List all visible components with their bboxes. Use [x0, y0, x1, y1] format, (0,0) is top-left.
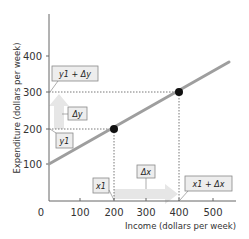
- label-dy: Δy: [62, 107, 87, 120]
- y-tick-400: 400: [23, 51, 42, 62]
- svg-text:x1: x1: [95, 182, 106, 191]
- svg-text:y1 + Δy: y1 + Δy: [58, 70, 91, 79]
- x-tick-300: 300: [136, 207, 155, 218]
- x-tick-200: 200: [104, 207, 123, 218]
- label-x1-plus-dx: x1 + Δx: [180, 176, 232, 200]
- x-tick-500: 500: [203, 207, 222, 218]
- y-tick-100: 100: [23, 159, 42, 170]
- y-axis-title: Expenditure (dollars per week): [12, 42, 22, 173]
- label-dx: Δx: [137, 165, 155, 189]
- svg-text:x1 + Δx: x1 + Δx: [192, 180, 225, 189]
- y-tick-200: 200: [23, 124, 42, 135]
- label-y1-plus-dy: y1 + Δy: [50, 66, 98, 92]
- x-tick-0: 0: [38, 207, 44, 218]
- svg-text:y1: y1: [59, 137, 70, 146]
- x-tick-100: 100: [70, 207, 89, 218]
- svg-text:Δy: Δy: [71, 110, 82, 119]
- income-expenditure-chart: 400 300 200 100 0 100 200 300 400 500 In…: [0, 0, 249, 239]
- svg-text:Δx: Δx: [140, 168, 151, 177]
- delta-y-arrow: [49, 94, 69, 129]
- label-y1: y1: [50, 129, 73, 148]
- x-axis-title: Income (dollars per week): [125, 221, 236, 231]
- label-x1: x1: [93, 178, 114, 200]
- x-tick-400: 400: [169, 207, 188, 218]
- point-x2-y2: [175, 88, 183, 96]
- y-tick-300: 300: [23, 87, 42, 98]
- point-x1-y1: [110, 125, 118, 133]
